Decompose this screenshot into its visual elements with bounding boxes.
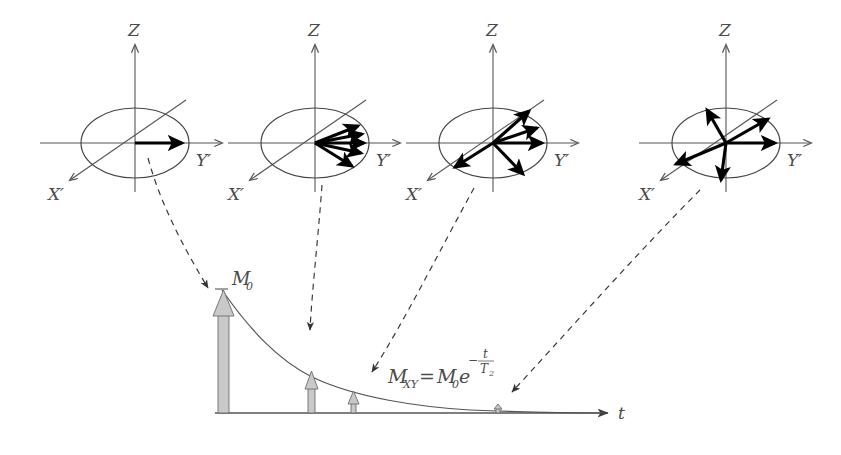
m0-label-subscript: 0 — [246, 280, 253, 293]
equation-exponent-numerator: t — [483, 347, 488, 361]
y-prime-label-2: Y′ — [376, 150, 391, 170]
magnitude-arrow-2-shaft — [308, 386, 315, 413]
z-label-4: Z — [718, 20, 732, 40]
z-label-1: Z — [127, 20, 141, 40]
equation-exponent-minus: − — [468, 353, 478, 367]
y-prime-label-3: Y′ — [554, 150, 569, 170]
equation-lhs-sub: XY — [402, 378, 420, 391]
y-prime-label-1: Y′ — [196, 150, 211, 170]
t2-relaxation-figure: Z Y′ X′ Z Y′ X′ — [0, 0, 841, 455]
z-label-3: Z — [485, 20, 499, 40]
equation-equals: = — [419, 365, 435, 387]
magnitude-arrow-1-shaft — [218, 313, 229, 413]
figure-canvas: Z Y′ X′ Z Y′ X′ — [0, 0, 841, 455]
y-prime-label-4: Y′ — [787, 150, 802, 170]
equation-exponent-denominator: T — [480, 362, 489, 376]
equation-exp-base: e — [459, 365, 470, 387]
t-axis-label: t — [618, 403, 625, 423]
equation-exponent-denominator-sub: 2 — [488, 369, 494, 378]
x-prime-label-4: X′ — [637, 184, 655, 204]
x-prime-label-3: X′ — [404, 184, 422, 204]
x-prime-label-2: X′ — [226, 184, 244, 204]
x-prime-label-1: X′ — [46, 184, 64, 204]
equation-rhs-sub: 0 — [452, 378, 459, 391]
z-label-2: Z — [307, 20, 321, 40]
